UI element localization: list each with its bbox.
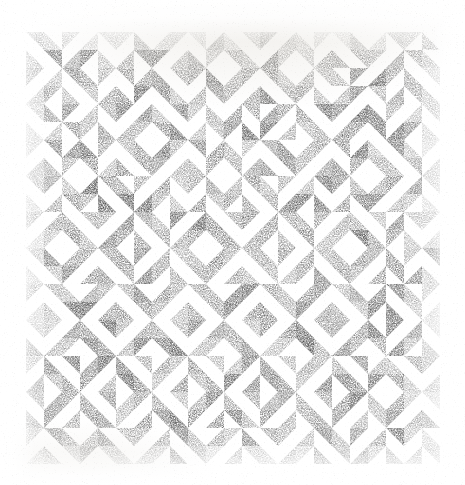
pattern-tile	[170, 374, 188, 392]
pattern-tile	[26, 32, 44, 50]
pattern-tile-accent	[44, 392, 62, 410]
pattern-tile-accent	[80, 446, 98, 464]
pattern-tile-accent	[368, 284, 386, 302]
pattern-tile-accent	[224, 284, 242, 302]
pattern-tile	[188, 104, 206, 122]
pattern-tile-accent	[98, 356, 116, 374]
pattern-tile	[44, 374, 62, 392]
pattern-tile	[62, 392, 80, 410]
pattern-tile	[152, 266, 170, 284]
pattern-tile	[44, 212, 62, 230]
pattern-tile	[278, 266, 296, 284]
pattern-tile-accent	[224, 302, 242, 320]
pattern-tile	[296, 284, 314, 302]
artwork-canvas	[0, 0, 465, 485]
pattern-tile-accent	[260, 104, 278, 122]
pattern-tile	[404, 230, 422, 248]
pattern-tile	[44, 302, 62, 320]
pattern-tile	[62, 248, 80, 266]
pattern-tile	[80, 104, 98, 122]
pattern-tile	[188, 194, 206, 212]
pattern-tile-accent	[296, 338, 314, 356]
pattern-tile	[422, 284, 440, 302]
pattern-tile	[296, 266, 314, 284]
pattern-tile	[296, 248, 314, 266]
pattern-tile	[260, 176, 278, 194]
pattern-tile	[134, 68, 152, 86]
pattern-tile	[242, 194, 260, 212]
pattern-tile	[188, 410, 206, 428]
pattern-tile-accent	[242, 374, 260, 392]
pattern-tile	[386, 266, 404, 284]
pattern-tile	[152, 104, 170, 122]
pattern-tile	[170, 284, 188, 302]
pattern-tile	[224, 140, 242, 158]
pattern-tile	[332, 284, 350, 302]
pattern-tile	[368, 266, 386, 284]
pattern-tile	[188, 32, 206, 50]
pattern-tile	[26, 320, 44, 338]
pattern-tile-accent	[170, 32, 188, 50]
pattern-tile-accent	[386, 410, 404, 428]
pattern-tile-accent	[26, 338, 44, 356]
pattern-tile	[206, 230, 224, 248]
pattern-tile	[188, 284, 206, 302]
pattern-tile	[242, 212, 260, 230]
pattern-tile	[260, 230, 278, 248]
pattern-tile	[314, 356, 332, 374]
pattern-tile	[206, 212, 224, 230]
pattern-tile-accent	[188, 212, 206, 230]
pattern-tile	[224, 392, 242, 410]
pattern-tile	[80, 122, 98, 140]
pattern-tile-accent	[26, 392, 44, 410]
pattern-tile	[404, 428, 422, 446]
pattern-tile-accent	[44, 248, 62, 266]
pattern-tile	[134, 428, 152, 446]
pattern-tile	[26, 356, 44, 374]
pattern-tile	[296, 140, 314, 158]
pattern-tile	[134, 302, 152, 320]
pattern-tile	[80, 374, 98, 392]
pattern-tile	[44, 266, 62, 284]
pattern-tile	[116, 230, 134, 248]
pattern-tile	[62, 410, 80, 428]
pattern-tile	[116, 428, 134, 446]
pattern-tile	[80, 86, 98, 104]
pattern-tile	[26, 122, 44, 140]
pattern-tile	[152, 302, 170, 320]
pattern-tile	[80, 248, 98, 266]
pattern-tile	[152, 212, 170, 230]
pattern-tile	[44, 122, 62, 140]
pattern-tile-accent	[260, 158, 278, 176]
pattern-tile-accent	[44, 176, 62, 194]
pattern-tile-accent	[170, 428, 188, 446]
pattern-tile	[422, 194, 440, 212]
pattern-tile-accent	[422, 410, 440, 428]
pattern-tile-accent	[44, 50, 62, 68]
pattern-tile	[206, 356, 224, 374]
pattern-tile-accent	[260, 140, 278, 158]
pattern-tile	[422, 374, 440, 392]
pattern-tile	[170, 86, 188, 104]
pattern-tile	[368, 50, 386, 68]
pattern-tile-accent	[404, 122, 422, 140]
pattern-tile-accent	[386, 32, 404, 50]
pattern-tile-accent	[314, 302, 332, 320]
pattern-tile	[242, 302, 260, 320]
pattern-tile-accent	[404, 266, 422, 284]
pattern-tile	[152, 122, 170, 140]
pattern-tile	[152, 446, 170, 464]
pattern-tile	[26, 140, 44, 158]
pattern-tile	[26, 266, 44, 284]
pattern-tile	[26, 284, 44, 302]
pattern-tile-accent	[134, 266, 152, 284]
pattern-tile-accent	[314, 158, 332, 176]
pattern-tile	[62, 86, 80, 104]
pattern-tile	[62, 32, 80, 50]
pattern-tile-accent	[314, 428, 332, 446]
pattern-tile-accent	[260, 122, 278, 140]
pattern-tile	[332, 32, 350, 50]
pattern-tile-accent	[386, 50, 404, 68]
pattern-tile-accent	[152, 158, 170, 176]
pattern-tile	[314, 212, 332, 230]
